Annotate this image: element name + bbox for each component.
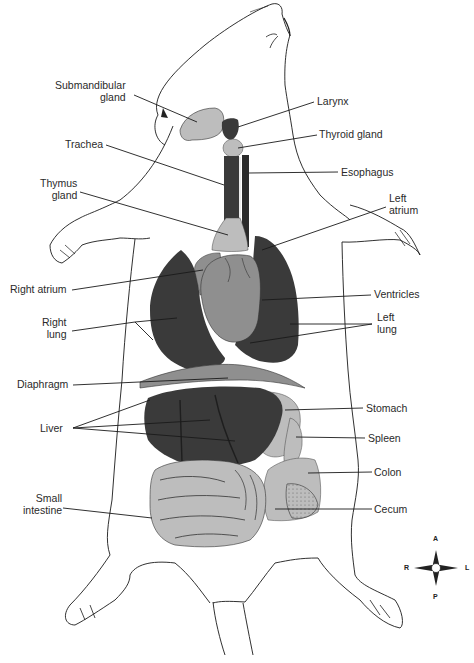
label-trachea: Trachea	[65, 138, 103, 150]
label-thyroid-gland: Thyroid gland	[319, 128, 383, 140]
label-line: intestine	[23, 504, 62, 516]
compass-right: R	[404, 564, 409, 571]
label-larynx: Larynx	[317, 95, 349, 107]
liver-shape	[144, 386, 282, 466]
submandibular-gland-shape	[180, 108, 224, 141]
label-line: Small	[23, 492, 62, 504]
label-line: atrium	[389, 204, 418, 216]
label-right-lung: Right lung	[42, 316, 67, 340]
label-submandibular-gland: Submandibular gland	[55, 79, 126, 103]
label-small-intestine: Small intestine	[23, 492, 62, 516]
label-diaphragm: Diaphragm	[17, 378, 68, 390]
label-cecum: Cecum	[374, 503, 407, 515]
label-esophagus: Esophagus	[341, 166, 394, 178]
label-liver: Liver	[40, 422, 63, 434]
label-line: Right	[42, 316, 67, 328]
compass-anterior: A	[433, 535, 438, 542]
compass-posterior: P	[433, 593, 438, 600]
label-line: gland	[40, 189, 77, 201]
ventricles-shape	[201, 255, 261, 342]
diaphragm-shape	[140, 364, 305, 388]
compass-rose	[414, 550, 458, 586]
label-line: gland	[55, 91, 126, 103]
label-line: lung	[42, 328, 67, 340]
label-spleen: Spleen	[368, 432, 401, 444]
larynx-shape	[222, 118, 239, 140]
label-line: lung	[377, 323, 397, 335]
label-left-lung: Left lung	[377, 311, 397, 335]
label-line: Thymus	[40, 177, 77, 189]
label-line: Left	[389, 192, 418, 204]
label-line: Left	[377, 311, 397, 323]
label-right-atrium: Right atrium	[10, 283, 67, 295]
label-line: Submandibular	[55, 79, 126, 91]
label-thymus-gland: Thymus gland	[40, 177, 77, 201]
compass-left: L	[465, 564, 469, 571]
label-ventricles: Ventricles	[374, 288, 420, 300]
small-intestine-shape	[150, 460, 266, 547]
label-left-atrium: Left atrium	[389, 192, 418, 216]
label-colon: Colon	[374, 466, 401, 478]
label-stomach: Stomach	[366, 402, 407, 414]
rat-anatomy-diagram: Submandibular gland Larynx Thyroid gland…	[0, 0, 474, 663]
